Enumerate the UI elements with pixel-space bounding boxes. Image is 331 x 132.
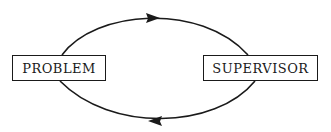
edge-supervisor-to-problem	[60, 81, 255, 119]
node-supervisor: SUPERVISOR	[203, 55, 318, 81]
feedback-loop-diagram: PROBLEM SUPERVISOR	[0, 0, 331, 132]
edge-problem-to-supervisor	[62, 18, 248, 55]
node-problem: PROBLEM	[12, 55, 106, 81]
node-problem-label: PROBLEM	[22, 61, 96, 76]
arrowhead-right-icon	[146, 13, 160, 23]
node-supervisor-label: SUPERVISOR	[212, 61, 308, 76]
